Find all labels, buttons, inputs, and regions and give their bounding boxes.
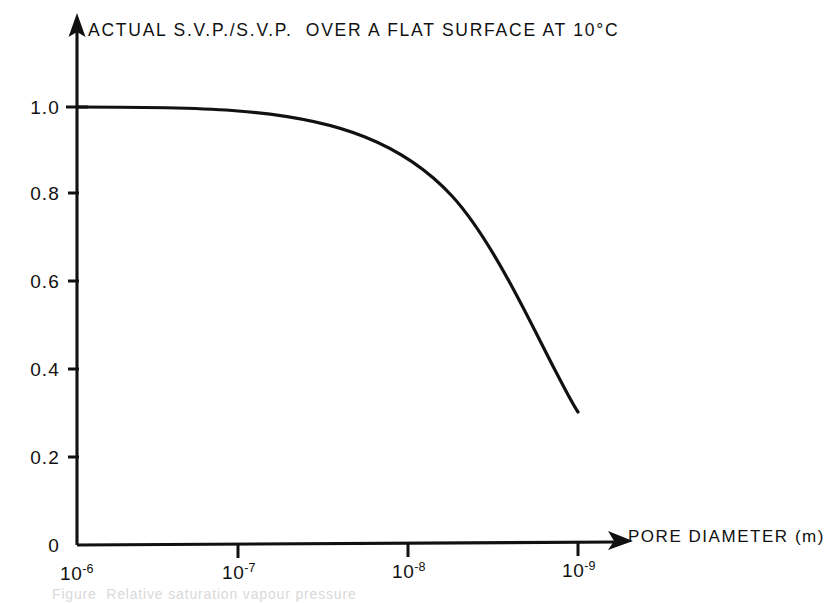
- y-axis: [69, 13, 86, 545]
- y-tick-label-0-4: 0.4: [8, 359, 60, 381]
- x-tick-label-1e-7: 10-7: [222, 561, 255, 584]
- x-tick-label-1e-6: 10-6: [60, 562, 93, 585]
- figure-caption-fragment: Figure Relative saturation vapour pressu…: [52, 586, 357, 602]
- x-axis: [77, 531, 633, 550]
- y-tick-label-1-0: 1.0: [8, 97, 60, 119]
- x-tick-label-1e-8-mantissa: 10: [392, 561, 414, 582]
- figure-container: ACTUAL S.V.P./S.V.P. OVER A FLAT SURFACE…: [0, 0, 827, 603]
- chart-canvas: [0, 0, 827, 603]
- x-tick-label-1e-9-mantissa: 10: [562, 560, 584, 581]
- x-tick-label-1e-9: 10-9: [562, 559, 595, 582]
- y-tick-label-0-2: 0.2: [8, 447, 60, 469]
- x-tick-label-1e-8: 10-8: [392, 560, 425, 583]
- y-tick-label-0-8: 0.8: [8, 183, 60, 205]
- y-tick-label-0: 0: [8, 535, 60, 557]
- chart-title: ACTUAL S.V.P./S.V.P. OVER A FLAT SURFACE…: [88, 22, 619, 40]
- x-axis-title: PORE DIAMETER (m): [628, 528, 825, 545]
- x-tick-label-1e-9-exponent: -9: [584, 559, 595, 573]
- data-curve-svp: [78, 107, 578, 412]
- x-tick-label-1e-8-exponent: -8: [414, 560, 425, 574]
- x-tick-label-1e-6-exponent: -6: [82, 562, 93, 576]
- x-tick-label-1e-6-mantissa: 10: [60, 563, 82, 584]
- x-axis-line: [77, 542, 616, 545]
- x-tick-label-1e-7-exponent: -7: [244, 561, 255, 575]
- y-tick-label-0-6: 0.6: [8, 271, 60, 293]
- x-tick-label-1e-7-mantissa: 10: [222, 562, 244, 583]
